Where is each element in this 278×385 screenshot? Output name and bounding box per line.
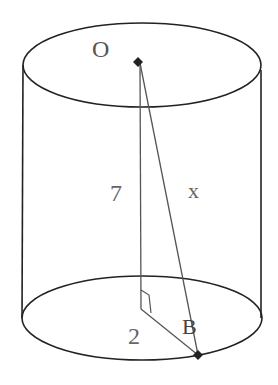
left-side [22,65,23,318]
label-height: 7 [110,181,122,205]
slant-line [140,63,198,355]
point-o [133,57,143,67]
top-ellipse [23,23,261,107]
label-slant: x [188,180,199,202]
height-line [140,63,141,309]
bottom-ellipse [22,276,262,360]
label-o: O [92,37,109,61]
label-radius: 2 [128,324,140,348]
label-b: B [182,316,197,338]
